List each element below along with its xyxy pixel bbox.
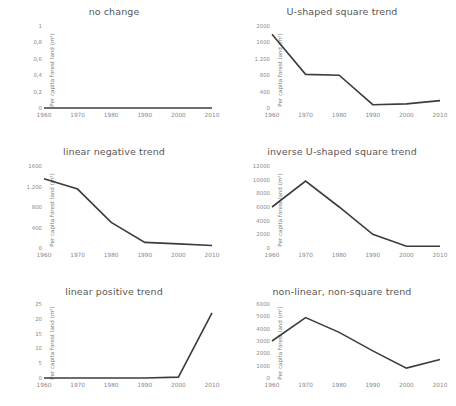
series-line	[44, 304, 212, 378]
x-tick-label: 1970	[70, 112, 85, 118]
series-line	[44, 26, 212, 108]
x-tick-label: 1960	[265, 252, 280, 258]
chart-panel-linear-negative-trend: linear negative trend Per capita forest …	[0, 140, 228, 280]
x-tick-label: 1990	[365, 252, 380, 258]
y-tick-label: 800	[260, 72, 270, 78]
x-tick-label: 2010	[205, 252, 220, 258]
x-tick-label: 1960	[37, 252, 52, 258]
x-tick-label: 1960	[37, 112, 52, 118]
y-tick-label: 400	[32, 225, 42, 231]
series-line	[272, 26, 440, 108]
chart-panel-linear-positive-trend: linear positive trend Per capita forest …	[0, 280, 228, 406]
plot-area	[44, 166, 212, 248]
y-tick-label: 2000	[256, 350, 270, 356]
y-tick-label: 1600	[256, 39, 270, 45]
y-tick-label: 800	[32, 204, 42, 210]
x-tick-label: 2000	[171, 252, 186, 258]
y-tick-label: 20	[35, 316, 42, 322]
y-tick-label: 12000	[253, 163, 270, 169]
y-tick-label: 6000	[256, 301, 270, 307]
x-tick-label: 2000	[399, 252, 414, 258]
y-tick-label: 5	[39, 360, 42, 366]
x-tick-label: 1970	[298, 252, 313, 258]
x-tick-label: 1990	[365, 382, 380, 388]
y-tick-label: 0	[267, 375, 270, 381]
x-tick-label: 2010	[433, 112, 448, 118]
x-tick-label: 1990	[137, 382, 152, 388]
chart-panel-u-shaped-square-trend: U-shaped square trend Per capita forest …	[228, 0, 456, 140]
plot-area	[44, 304, 212, 378]
x-tick-label: 1970	[298, 382, 313, 388]
x-tick-label: 1980	[104, 112, 119, 118]
x-tick-label: 1980	[104, 252, 119, 258]
y-tick-label: 0,8	[33, 39, 42, 45]
y-tick-label: 0	[267, 105, 270, 111]
y-axis-ticks: 020004000600080001000012000	[244, 140, 270, 280]
y-tick-label: 4000	[256, 218, 270, 224]
x-tick-label: 1980	[104, 382, 119, 388]
y-tick-label: 4000	[256, 326, 270, 332]
y-tick-label: 6000	[256, 204, 270, 210]
x-tick-label: 2010	[205, 112, 220, 118]
series-line	[44, 166, 212, 248]
x-tick-label: 2010	[205, 382, 220, 388]
chart-panel-inverse-u-shaped-square-trend: inverse U-shaped square trend Per capita…	[228, 140, 456, 280]
y-tick-label: 0,4	[33, 72, 42, 78]
y-tick-label: 2000	[256, 23, 270, 29]
plot-area	[272, 304, 440, 378]
y-tick-label: 25	[35, 301, 42, 307]
y-tick-label: 15	[35, 331, 42, 337]
series-line	[272, 304, 440, 378]
x-tick-label: 1970	[70, 252, 85, 258]
y-axis-ticks: 04008001.2001600	[16, 140, 42, 280]
x-tick-label: 1990	[137, 112, 152, 118]
y-axis-ticks: 04008001.20016002000	[244, 0, 270, 140]
plot-area	[272, 166, 440, 248]
x-tick-label: 2010	[433, 382, 448, 388]
y-tick-label: 1	[39, 23, 42, 29]
y-tick-label: 0	[39, 105, 42, 111]
y-tick-label: 0,6	[33, 56, 42, 62]
x-tick-label: 2000	[399, 382, 414, 388]
y-tick-label: 10	[35, 345, 42, 351]
y-tick-label: 1000	[256, 363, 270, 369]
x-tick-label: 1960	[265, 382, 280, 388]
x-tick-label: 1980	[332, 382, 347, 388]
y-tick-label: 0	[39, 375, 42, 381]
y-axis-ticks: 00,20,40,60,81	[16, 0, 42, 140]
y-tick-label: 1.200	[255, 56, 270, 62]
y-tick-label: 0,2	[33, 89, 42, 95]
y-tick-label: 5000	[256, 313, 270, 319]
y-tick-label: 8000	[256, 190, 270, 196]
chart-panel-no-change: no change Per capita forest land (m²) 00…	[0, 0, 228, 140]
y-tick-label: 3000	[256, 338, 270, 344]
plot-area	[272, 26, 440, 108]
x-tick-label: 1980	[332, 252, 347, 258]
x-tick-label: 2000	[171, 382, 186, 388]
chart-panel-non-linear-non-square-trend: non-linear, non-square trend Per capita …	[228, 280, 456, 406]
y-tick-label: 1600	[28, 163, 42, 169]
chart-grid: no change Per capita forest land (m²) 00…	[0, 0, 456, 406]
x-tick-label: 1970	[298, 112, 313, 118]
y-tick-label: 10000	[253, 177, 270, 183]
y-tick-label: 0	[39, 245, 42, 251]
x-tick-label: 1990	[365, 112, 380, 118]
series-line	[272, 166, 440, 248]
x-tick-label: 1960	[37, 382, 52, 388]
x-tick-label: 1970	[70, 382, 85, 388]
x-tick-label: 2010	[433, 252, 448, 258]
plot-area	[44, 26, 212, 108]
y-tick-label: 0	[267, 245, 270, 251]
x-tick-label: 2000	[171, 112, 186, 118]
x-tick-label: 1980	[332, 112, 347, 118]
x-tick-label: 1960	[265, 112, 280, 118]
y-tick-label: 1.200	[27, 184, 42, 190]
y-tick-label: 400	[260, 89, 270, 95]
y-tick-label: 2000	[256, 231, 270, 237]
x-tick-label: 2000	[399, 112, 414, 118]
x-tick-label: 1990	[137, 252, 152, 258]
